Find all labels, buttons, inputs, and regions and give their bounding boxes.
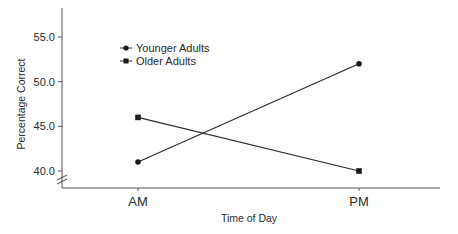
y-tick-label: 45.0 <box>34 120 55 132</box>
circle-marker-icon <box>123 45 128 50</box>
circle-marker-icon <box>356 61 362 67</box>
y-tick-label: 50.0 <box>34 76 55 88</box>
legend-item-younger-adults: Younger Adults <box>120 42 210 54</box>
legend-label: Older Adults <box>136 55 196 67</box>
y-axis-title: Percentage Correct <box>15 58 27 149</box>
y-tick: 50.0 <box>34 76 62 88</box>
y-ticks: 40.045.050.055.0 <box>34 31 62 177</box>
y-tick-label: 40.0 <box>34 165 55 177</box>
x-tick-label: AM <box>128 194 148 209</box>
x-ticks: AMPM <box>128 188 369 209</box>
legend: Younger Adults Older Adults <box>120 42 210 67</box>
y-tick: 55.0 <box>34 31 62 43</box>
circle-marker-icon <box>135 159 141 165</box>
square-marker-icon <box>356 168 362 174</box>
series-younger-adults <box>135 61 362 165</box>
x-tick: PM <box>349 188 369 209</box>
square-marker-icon <box>135 115 141 121</box>
y-tick: 45.0 <box>34 120 62 132</box>
x-tick: AM <box>128 188 148 209</box>
legend-label: Younger Adults <box>136 42 210 54</box>
y-tick-label: 55.0 <box>34 31 55 43</box>
series-older-adults <box>135 115 362 174</box>
x-tick-label: PM <box>349 194 369 209</box>
x-axis-title: Time of Day <box>221 212 278 224</box>
legend-item-older-adults: Older Adults <box>120 55 196 67</box>
y-tick: 40.0 <box>34 165 62 177</box>
square-marker-icon <box>124 59 129 64</box>
interaction-line-chart: 40.045.050.055.0 AMPM Percentage Correct… <box>0 0 458 234</box>
series-group <box>135 61 362 174</box>
